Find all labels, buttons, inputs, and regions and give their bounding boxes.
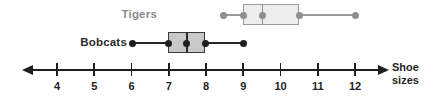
axis-tick-4 (56, 63, 58, 76)
axis-tick-label-11: 11 (306, 80, 330, 92)
axis-tick-5 (93, 63, 95, 76)
axis-tick-11 (317, 63, 319, 76)
tigers-box (243, 4, 299, 25)
bobcats-min-dot (129, 40, 136, 47)
tigers-min-dot (220, 12, 227, 19)
axis-tick-label-6: 6 (120, 80, 144, 92)
bobcats-median-dot (183, 40, 190, 47)
series-label-bobcats: Bobcats (80, 36, 127, 48)
bobcats-lower-whisker (132, 42, 169, 44)
axis-arrow-left-icon (22, 65, 33, 75)
series-label-tigers: Tigers (121, 8, 157, 20)
axis-tick-label-8: 8 (194, 80, 218, 92)
axis-tick-10 (280, 63, 282, 76)
axis-tick-6 (131, 63, 133, 76)
axis-tick-label-7: 7 (157, 80, 181, 92)
axis-title-line-1: Shoe (392, 61, 419, 74)
axis-tick-12 (354, 63, 356, 76)
tigers-q3-dot (296, 12, 303, 19)
bobcats-q3-dot (202, 40, 209, 47)
tigers-q1-dot (240, 12, 247, 19)
box-plot-figure: Tigers Bobcats 4 5 6 7 8 9 10 11 12 Shoe… (0, 0, 433, 97)
axis-tick-label-4: 4 (45, 80, 69, 92)
tigers-max-dot (352, 12, 359, 19)
axis-tick-label-12: 12 (343, 80, 367, 92)
axis-tick-8 (205, 63, 207, 76)
axis-tick-label-10: 10 (269, 80, 293, 92)
axis-tick-label-5: 5 (82, 80, 106, 92)
bobcats-max-dot (240, 40, 247, 47)
axis-tick-label-9: 9 (231, 80, 255, 92)
axis-tick-7 (168, 63, 170, 76)
bobcats-q1-dot (165, 40, 172, 47)
tigers-median-dot (259, 12, 266, 19)
bobcats-upper-whisker (204, 42, 243, 44)
axis-title: Shoe sizes (392, 61, 419, 86)
axis-title-line-2: sizes (392, 74, 419, 87)
tigers-upper-whisker (299, 14, 356, 16)
axis-tick-9 (242, 63, 244, 76)
axis-arrow-right-icon (378, 65, 389, 75)
